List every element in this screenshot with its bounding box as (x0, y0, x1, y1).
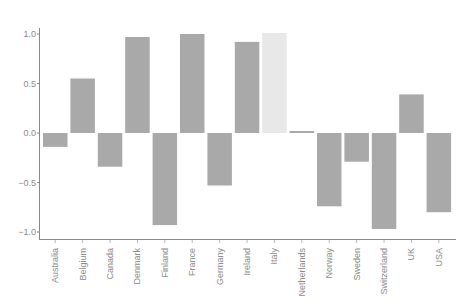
x-label-france: France (187, 248, 197, 276)
y-tick-label: −1.0 (18, 227, 36, 237)
y-tick-label: 0.5 (23, 79, 36, 89)
x-label-italy: Italy (269, 248, 279, 265)
x-label-australia: Australia (50, 248, 60, 283)
x-label-sweden: Sweden (352, 248, 362, 281)
y-tick-label: −0.5 (18, 178, 36, 188)
x-label-germany: Germany (215, 248, 225, 286)
y-tick-labels: 1.00.50.0−0.5−1.0 (18, 29, 39, 237)
x-label-switzerland: Switzerland (379, 248, 389, 295)
x-label-usa: USA (434, 248, 444, 267)
bar-canada (98, 133, 123, 167)
bar-switzerland (372, 133, 397, 229)
bar-finland (153, 133, 178, 225)
bar-france (180, 34, 205, 133)
x-tick-labels: AustraliaBelgiumCanadaDenmarkFinlandFran… (50, 248, 444, 297)
bar-denmark (125, 37, 150, 133)
bar-italy (262, 33, 287, 133)
bar-belgium (70, 79, 95, 134)
x-label-ireland: Ireland (242, 248, 252, 276)
y-tick-label: 1.0 (23, 29, 36, 39)
x-label-denmark: Denmark (132, 248, 142, 285)
bar-chart: 1.00.50.0−0.5−1.0 AustraliaBelgiumCanada… (0, 0, 470, 306)
y-tick-label: 0.0 (23, 128, 36, 138)
x-label-netherlands: Netherlands (297, 248, 307, 297)
bar-germany (207, 133, 232, 186)
x-label-uk: UK (406, 248, 416, 261)
x-label-canada: Canada (105, 248, 115, 280)
x-label-norway: Norway (324, 248, 334, 279)
x-axis (39, 240, 456, 244)
bar-norway (317, 133, 342, 206)
bar-netherlands (290, 131, 315, 133)
x-label-finland: Finland (160, 248, 170, 278)
bar-usa (427, 133, 452, 212)
bar-australia (43, 133, 68, 147)
bar-ireland (235, 42, 259, 133)
bars-group (43, 33, 451, 229)
bar-uk (399, 94, 424, 133)
x-label-belgium: Belgium (78, 248, 88, 281)
bar-sweden (344, 133, 369, 162)
